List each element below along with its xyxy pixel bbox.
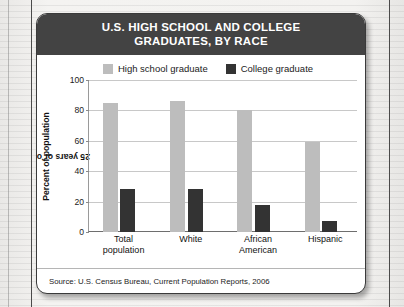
page-margin-rule-left — [31, 0, 32, 307]
legend-item-high-school-graduate: High school graduate — [103, 63, 208, 74]
bar — [170, 101, 185, 232]
x-tick-label-line1: Total — [114, 234, 133, 244]
x-tick-label-line2: American — [227, 245, 290, 256]
page-margin-rule-right — [389, 0, 390, 307]
bar-group — [290, 80, 357, 232]
bar-group — [88, 80, 155, 232]
legend-swatch-icon-college-graduate — [226, 64, 236, 74]
y-axis-tick-labels: 100806040200 — [65, 80, 87, 232]
y-tick-label: 20 — [74, 197, 84, 207]
scanned-page-background: U.S. HIGH SCHOOL AND COLLEGE GRADUATES, … — [0, 0, 404, 307]
bar — [188, 189, 203, 232]
x-tick-label: White — [155, 234, 222, 256]
y-axis-tick-mark — [86, 232, 89, 233]
x-tick-label-line1: White — [179, 234, 202, 244]
y-tick-label: 0 — [79, 227, 84, 237]
legend-item-college-graduate: College graduate — [226, 63, 313, 74]
source-note: Source: U.S. Census Bureau, Current Popu… — [49, 277, 270, 286]
chart-title: U.S. HIGH SCHOOL AND COLLEGE GRADUATES, … — [90, 21, 313, 48]
bar-group — [223, 80, 290, 232]
chart-legend: High school graduate College graduate — [37, 63, 365, 74]
x-tick-label-line2: population — [92, 245, 155, 256]
chart-title-line2: GRADUATES, BY RACE — [102, 35, 301, 49]
bar-groups — [88, 80, 357, 232]
legend-label-college-graduate: College graduate — [241, 63, 313, 74]
bar — [103, 103, 118, 232]
bar — [255, 205, 270, 232]
bar-group — [155, 80, 222, 232]
y-tick-label: 80 — [74, 105, 84, 115]
x-tick-label: Totalpopulation — [88, 234, 155, 256]
legend-swatch-icon-high-school-graduate — [103, 64, 113, 74]
y-tick-label: 100 — [70, 75, 84, 85]
bar — [120, 189, 135, 232]
page-margin-rule-faint — [8, 0, 9, 307]
bar — [322, 221, 337, 232]
legend-label-high-school-graduate: High school graduate — [118, 63, 208, 74]
x-tick-label-line1: African — [244, 234, 272, 244]
x-axis-tick-labels: TotalpopulationWhiteAfricanAmericanHispa… — [88, 234, 357, 256]
y-tick-label: 60 — [74, 136, 84, 146]
chart-title-line1: U.S. HIGH SCHOOL AND COLLEGE — [102, 21, 301, 33]
source-divider — [37, 268, 365, 269]
bar — [305, 142, 320, 232]
x-tick-label-line1: Hispanic — [308, 234, 343, 244]
chart-card: U.S. HIGH SCHOOL AND COLLEGE GRADUATES, … — [36, 13, 366, 294]
chart-header: U.S. HIGH SCHOOL AND COLLEGE GRADUATES, … — [37, 14, 365, 55]
x-tick-label: Hispanic — [290, 234, 357, 256]
y-axis-title: Percent of population 25 years or over — [37, 80, 65, 232]
bar — [237, 110, 252, 232]
plot-area: Percent of population 25 years or over 1… — [37, 80, 365, 255]
x-tick-label: AfricanAmerican — [223, 234, 290, 256]
y-tick-label: 40 — [74, 166, 84, 176]
